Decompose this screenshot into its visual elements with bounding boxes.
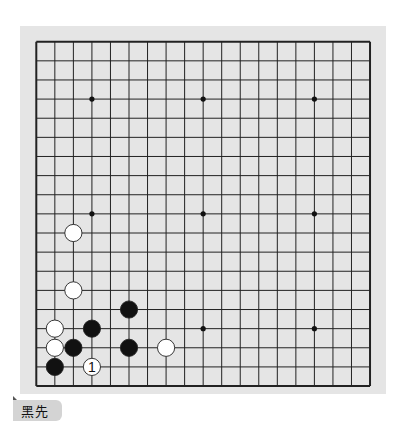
to-play-label: 黑先 bbox=[21, 401, 49, 420]
move-number-label: 1 bbox=[88, 359, 96, 375]
black-stone[interactable] bbox=[120, 339, 137, 356]
star-point-icon bbox=[312, 211, 317, 216]
board-grid[interactable]: 1 bbox=[20, 26, 386, 394]
white-stone[interactable] bbox=[65, 282, 82, 299]
star-point-icon bbox=[312, 326, 317, 331]
black-stone[interactable] bbox=[120, 301, 137, 318]
white-stone[interactable] bbox=[46, 320, 63, 337]
white-stone[interactable] bbox=[157, 339, 174, 356]
go-board[interactable]: 1 bbox=[20, 26, 386, 394]
star-point-icon bbox=[201, 326, 206, 331]
white-stone[interactable] bbox=[65, 224, 82, 241]
star-point-icon bbox=[201, 96, 206, 101]
star-point-icon bbox=[89, 96, 94, 101]
star-point-icon bbox=[312, 96, 317, 101]
black-stone[interactable] bbox=[46, 358, 63, 375]
black-stone[interactable] bbox=[65, 339, 82, 356]
star-point-icon bbox=[89, 211, 94, 216]
star-point-icon bbox=[201, 211, 206, 216]
white-stone[interactable] bbox=[46, 339, 63, 356]
caption-tab: 黑先 bbox=[13, 400, 62, 421]
black-stone[interactable] bbox=[83, 320, 100, 337]
